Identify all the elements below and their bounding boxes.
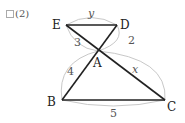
point-label-c: C xyxy=(167,100,176,114)
segment-db xyxy=(62,25,117,100)
point-label-e: E xyxy=(52,18,61,32)
point-label-b: B xyxy=(47,95,56,109)
point-label-d: D xyxy=(120,18,130,32)
length-label-bc: 5 xyxy=(110,107,117,120)
arc-bc xyxy=(62,100,165,106)
length-label-ed: y xyxy=(87,7,95,20)
length-label-ad: 2 xyxy=(128,34,135,47)
length-label-ab: 4 xyxy=(67,65,74,78)
length-label-ac: x xyxy=(132,63,139,76)
geometry-figure: E D A B C y 2 3 4 x 5 xyxy=(0,0,185,123)
point-label-a: A xyxy=(92,56,102,70)
length-label-ea: 3 xyxy=(74,36,81,49)
